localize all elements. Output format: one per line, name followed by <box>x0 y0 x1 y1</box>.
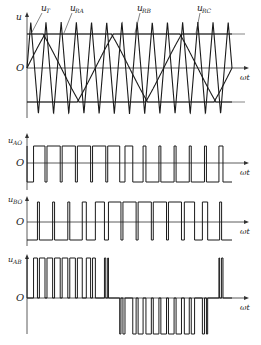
panel-u-ao <box>25 133 249 190</box>
reference-label-b: u RB <box>137 3 152 14</box>
x-axis-label-u-ab: ωt <box>240 303 251 312</box>
u-ab-wave <box>27 258 232 334</box>
carrier-label: u T <box>41 3 51 14</box>
svg-text:AO: AO <box>12 139 22 146</box>
svg-text:RB: RB <box>141 7 152 14</box>
x-axis-label-u-bo: ωt <box>240 227 251 236</box>
panel-u-bo <box>25 196 249 246</box>
origin-label-u-bo: O <box>16 216 24 227</box>
svg-text:RA: RA <box>74 7 85 14</box>
y-axis-label-u-ab: u AB <box>8 255 22 265</box>
u-bo-wave <box>27 202 232 240</box>
svg-text:RC: RC <box>201 7 212 14</box>
x-axis-label-u-ao: ωt <box>240 168 251 177</box>
svg-text:AB: AB <box>12 258 22 265</box>
reference-label-a: u RA <box>70 3 85 14</box>
x-axis-label: ωt <box>240 73 251 82</box>
origin-label-u-ao: O <box>16 157 24 168</box>
y-axis-label-u-bo: u BO <box>8 195 23 205</box>
label-leader-lines <box>32 13 200 33</box>
panel-u-ab <box>25 254 249 334</box>
y-axis-label-u: u <box>16 12 22 22</box>
spwm-diagram: u O ωt u T u RA u RB u RC u AO O ωt u BO… <box>0 0 261 345</box>
svg-text:T: T <box>46 7 51 14</box>
origin-label-u-ab: O <box>16 292 24 303</box>
svg-text:BO: BO <box>12 198 23 205</box>
u-ao-wave <box>27 146 232 182</box>
y-axis-label-u-ao: u AO <box>8 136 22 146</box>
origin-label: O <box>16 62 24 73</box>
panel-carrier-reference <box>25 12 249 118</box>
reference-label-c: u RC <box>197 3 212 14</box>
